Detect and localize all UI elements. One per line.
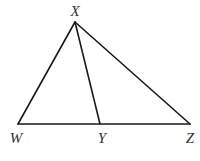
vertex-label-y: Y <box>98 130 108 146</box>
triangle-diagram: X W Y Z <box>0 0 200 161</box>
triangle-edges <box>18 22 190 124</box>
vertex-label-w: W <box>10 130 24 146</box>
vertex-label-z: Z <box>186 130 195 146</box>
segment-xw <box>18 22 75 124</box>
segment-xz <box>75 22 190 124</box>
vertex-label-x: X <box>69 3 80 19</box>
segment-xy <box>75 22 100 124</box>
